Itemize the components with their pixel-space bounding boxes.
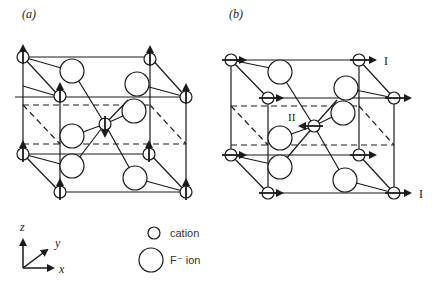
- coordinate-axes: [23, 240, 53, 268]
- legend-cation-symbol: [148, 227, 160, 239]
- fluoride-ion: [331, 101, 355, 125]
- mode-label-I-top: I: [384, 54, 388, 68]
- legend-fluoride-symbol: [139, 248, 163, 272]
- fluoride-ion: [334, 76, 358, 100]
- fluoride-ion: [268, 60, 292, 84]
- fluoride-ion: [333, 168, 357, 192]
- z-axis-label: z: [19, 220, 25, 234]
- y-axis-arrow: [23, 250, 47, 268]
- legend: cation F⁻ ion: [139, 227, 200, 272]
- fluoride-ion: [60, 154, 84, 178]
- legend-cation-label: cation: [170, 227, 199, 239]
- panel-b: [222, 54, 410, 199]
- fluoride-ion: [125, 72, 149, 96]
- fluoride-ion: [268, 126, 292, 150]
- x-axis-label: x: [58, 262, 65, 276]
- fluoride-ion: [122, 99, 146, 123]
- mode-label-II: II: [288, 111, 296, 123]
- fluoride-ion: [60, 59, 84, 83]
- panel-a: [15, 46, 192, 200]
- mode-label-I-bottom: I: [419, 187, 423, 201]
- panel-a-label: (a): [22, 7, 36, 21]
- fluoride-ion: [268, 155, 292, 179]
- fluoride-ion: [60, 124, 84, 148]
- legend-fluoride-label: F⁻ ion: [170, 254, 200, 266]
- fluorite-lattice-diagram: (a): [0, 0, 437, 287]
- y-axis-label: y: [54, 236, 61, 250]
- fluoride-ion: [123, 166, 147, 190]
- panel-b-label: (b): [229, 7, 243, 21]
